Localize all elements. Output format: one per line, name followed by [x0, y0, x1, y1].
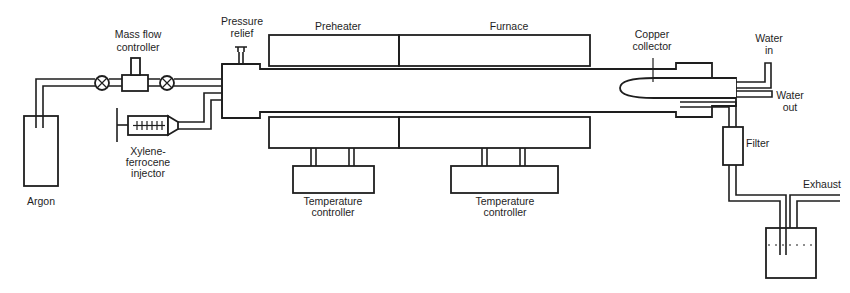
furnace-upper [399, 35, 590, 66]
temperature-controller-1 [293, 148, 374, 193]
temp-controller-2-label-line2: controller [483, 206, 527, 218]
water-in-label-line2: in [765, 44, 773, 56]
water-lines [736, 63, 772, 97]
exhaust-label: Exhaust [803, 178, 841, 190]
furnace-lower [399, 117, 590, 148]
copper-collector-label-line2: collector [632, 40, 672, 52]
pressure-relief-label-line2: relief [231, 27, 254, 39]
injector-label-line3: injector [131, 167, 165, 179]
water-out-label-line2: out [783, 101, 798, 113]
mfc-label-line2: controller [116, 41, 160, 53]
temp-controller-1-label-line2: controller [311, 206, 355, 218]
valve-icon [160, 76, 174, 90]
preheater-lower [269, 117, 399, 148]
water-in-label-line1: Water [755, 32, 783, 44]
water-out-label-line1: Water [776, 89, 804, 101]
argon-cylinder [24, 79, 95, 186]
furnace-label: Furnace [490, 20, 529, 32]
pressure-relief-valve [235, 47, 247, 64]
temperature-controller-2 [451, 148, 558, 193]
preheater-upper [269, 35, 399, 66]
preheater-label: Preheater [315, 20, 362, 32]
mass-flow-controller [122, 58, 148, 91]
valve-icon [95, 76, 109, 90]
bubbler [766, 195, 840, 278]
mfc-label-line1: Mass flow [115, 28, 162, 40]
pressure-relief-label-line1: Pressure [221, 15, 263, 27]
argon-label: Argon [27, 195, 55, 207]
filter-label: Filter [746, 137, 770, 149]
cvd-apparatus-diagram: Argon Mass flow controller Xylene- ferro… [0, 0, 850, 293]
copper-collector-label-line1: Copper [635, 28, 670, 40]
